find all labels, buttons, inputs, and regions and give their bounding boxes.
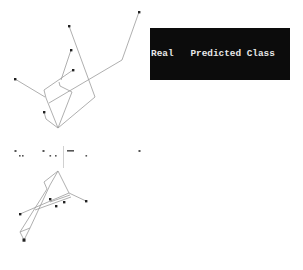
marker — [43, 150, 45, 152]
node — [55, 205, 57, 207]
edge — [61, 50, 71, 80]
marker — [22, 155, 24, 157]
edge — [15, 79, 45, 97]
node — [138, 11, 140, 13]
marker — [86, 155, 88, 157]
node — [19, 213, 21, 215]
edge — [69, 26, 95, 97]
console-header-line: Real Predicted Class — [151, 49, 290, 59]
node — [72, 69, 74, 71]
edge — [49, 12, 139, 103]
edge — [58, 82, 72, 128]
node — [63, 201, 65, 203]
node — [68, 25, 70, 27]
marker — [139, 150, 141, 152]
top-graph-nodes — [14, 11, 140, 113]
marker — [67, 150, 74, 152]
marker — [50, 155, 52, 157]
node — [23, 239, 26, 242]
edge — [58, 97, 95, 128]
node — [14, 78, 16, 80]
node — [70, 49, 72, 51]
edge — [58, 171, 86, 201]
top-graph-edges — [15, 12, 139, 128]
bottom-graph-edges — [20, 171, 86, 240]
marker — [15, 150, 17, 152]
edge — [60, 70, 73, 79]
node — [43, 111, 45, 113]
console-output: Real Predicted Class Class 1 2 1 4 2 2 1… — [150, 28, 290, 80]
marker — [55, 155, 57, 157]
node — [85, 200, 87, 202]
bottom-graph-nodes — [19, 198, 87, 242]
marker — [19, 155, 21, 157]
node — [49, 198, 51, 200]
edge — [44, 79, 60, 90]
bottom-marker-row — [15, 150, 141, 157]
edge — [44, 112, 58, 128]
